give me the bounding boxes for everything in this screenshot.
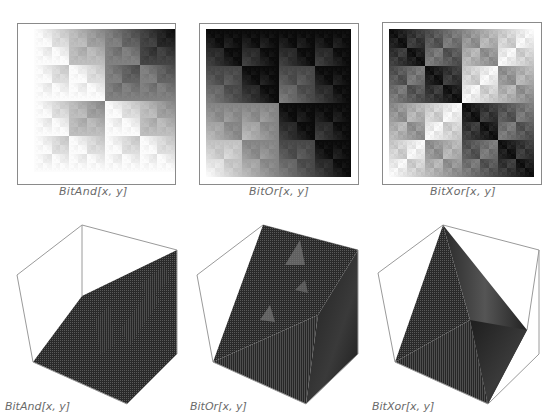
label-surface-bitand: BitAnd[x, y] — [5, 400, 70, 413]
label-density-bitxor: BitXor[x, y] — [430, 185, 496, 198]
surface-plot-bitand — [17, 225, 177, 404]
label-density-bitand: BitAnd[x, y] — [59, 185, 128, 198]
label-surface-bitor: BitOr[x, y] — [190, 400, 247, 413]
surface-plot-bitxor — [378, 225, 539, 404]
density-image-bitand — [34, 29, 175, 172]
label-surface-bitxor: BitXor[x, y] — [372, 400, 434, 413]
label-density-bitor: BitOr[x, y] — [249, 185, 309, 198]
surface-plot-bitor — [197, 225, 358, 404]
density-plot-bitxor — [382, 22, 542, 185]
density-plot-bitand — [17, 23, 176, 185]
density-image-bitor — [206, 29, 351, 177]
surface-plots-3d: BitAnd[x, y] BitOr[x, y] BitXor[x, y] — [0, 200, 552, 416]
density-image-bitxor — [389, 29, 534, 177]
density-plot-bitor — [199, 23, 359, 185]
